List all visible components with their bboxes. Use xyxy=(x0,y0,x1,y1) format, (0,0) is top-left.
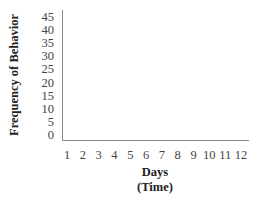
x-axis-label-line-2: (Time) xyxy=(137,180,173,195)
y-tick-label: 5 xyxy=(48,116,54,129)
x-tick-label: 11 xyxy=(219,149,231,162)
y-tick-label: 15 xyxy=(42,89,55,102)
y-tick-label: 10 xyxy=(42,103,55,116)
y-tick-label: 0 xyxy=(48,129,54,142)
x-tick-label: 9 xyxy=(190,149,196,162)
x-tick-label: 5 xyxy=(127,149,133,162)
x-tick-label: 3 xyxy=(96,149,102,162)
y-axis-label-text: Frequency of Behavior xyxy=(7,14,22,136)
x-axis-line xyxy=(62,140,249,141)
y-tick-label: 40 xyxy=(42,24,55,37)
x-axis-label-line-1: Days xyxy=(137,165,173,180)
y-tick-label: 45 xyxy=(42,11,55,24)
x-axis-label: Days (Time) xyxy=(137,165,173,195)
y-axis-label: Frequency of Behavior xyxy=(4,0,24,150)
x-tick-label: 6 xyxy=(143,149,149,162)
x-tick-label: 4 xyxy=(111,149,117,162)
y-tick-label: 25 xyxy=(42,63,55,76)
x-tick-label: 1 xyxy=(64,149,70,162)
x-tick-label: 8 xyxy=(175,149,181,162)
y-axis-line xyxy=(62,10,63,141)
x-tick-label: 2 xyxy=(80,149,86,162)
x-tick-label: 12 xyxy=(235,149,248,162)
y-tick-label: 20 xyxy=(42,76,55,89)
x-tick-label: 10 xyxy=(203,149,216,162)
y-tick-label: 30 xyxy=(42,50,55,63)
x-tick-label: 7 xyxy=(159,149,165,162)
y-tick-label: 35 xyxy=(42,37,55,50)
